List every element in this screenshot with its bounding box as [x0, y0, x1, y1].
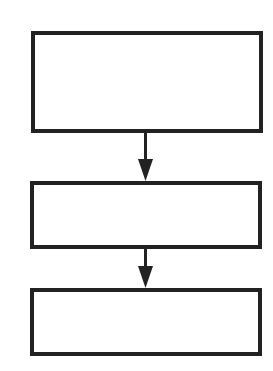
- arrow-box2-to-box3: [138, 249, 153, 288]
- connector-arrows: [0, 0, 273, 371]
- arrow-box1-to-box2: [138, 133, 153, 181]
